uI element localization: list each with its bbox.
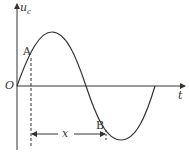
point-a-label: A	[23, 46, 31, 57]
x-axis-label: t	[178, 90, 182, 101]
origin-label: O	[5, 80, 14, 91]
point-b-label: B	[96, 120, 104, 131]
distance-label: x	[62, 128, 68, 139]
waveform-diagram	[0, 0, 190, 152]
y-axis-label: uc	[20, 2, 31, 16]
